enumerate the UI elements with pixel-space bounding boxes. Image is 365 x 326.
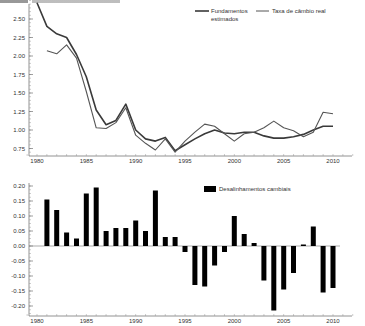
bar-y-tick-label: -0.10 xyxy=(11,273,25,279)
bar-2004 xyxy=(271,246,276,311)
bar-y-tick-label: -0.05 xyxy=(11,258,25,264)
bar-chart: 0.200.150.100.050.00-0.05-0.10-0.15-0.20… xyxy=(0,0,365,326)
bar-1990 xyxy=(133,221,138,247)
bar-2000 xyxy=(232,216,237,246)
bar-1982 xyxy=(54,210,59,246)
bar-1997 xyxy=(202,246,207,287)
bar-1985 xyxy=(84,194,89,247)
bar-x-tick-label: 2000 xyxy=(228,318,242,324)
bar-x-tick-label: 2010 xyxy=(326,318,340,324)
bar-y-tick-label: -0.15 xyxy=(11,288,25,294)
bar-1989 xyxy=(123,228,128,246)
bar-y-tick-label: 0.10 xyxy=(13,213,25,219)
bar-legend: Desalinhamentos cambiais xyxy=(204,186,291,192)
bar-2003 xyxy=(261,246,266,281)
bar-2006 xyxy=(291,246,296,273)
bar-1996 xyxy=(192,246,197,285)
bar-x-tick-label: 2005 xyxy=(277,318,291,324)
bar-1999 xyxy=(222,246,227,252)
bar-x-tick-label: 1985 xyxy=(80,318,94,324)
bar-1984 xyxy=(74,239,79,247)
bar-1994 xyxy=(173,237,178,246)
bar-1993 xyxy=(163,237,168,246)
bar-y-tick-label: -0.20 xyxy=(11,303,25,309)
bar-y-tick-label: 0.20 xyxy=(13,183,25,189)
legend-desalinhamentos-label: Desalinhamentos cambiais xyxy=(219,186,291,192)
bar-y-tick-label: 0.00 xyxy=(13,243,25,249)
bar-x-tick-label: 1990 xyxy=(129,318,143,324)
bar-1981 xyxy=(44,200,49,247)
legend-desalinhamentos-swatch xyxy=(204,186,216,192)
bar-2009 xyxy=(321,246,326,293)
bar-x-tick-label: 1980 xyxy=(30,318,44,324)
bar-1986 xyxy=(94,188,99,247)
bar-1998 xyxy=(212,246,217,266)
bar-1987 xyxy=(104,231,109,246)
bar-1995 xyxy=(183,246,188,252)
bar-2005 xyxy=(281,246,286,290)
bar-2007 xyxy=(301,245,306,247)
bar-1983 xyxy=(64,233,69,247)
bar-1992 xyxy=(153,191,158,247)
bar-2008 xyxy=(311,227,316,247)
bar-1991 xyxy=(143,231,148,246)
bar-1988 xyxy=(113,228,118,246)
bar-x-tick-label: 1995 xyxy=(178,318,192,324)
bar-y-tick-label: 0.05 xyxy=(13,228,25,234)
bar-y-tick-label: 0.15 xyxy=(13,198,25,204)
bar-2001 xyxy=(242,234,247,246)
bar-2010 xyxy=(331,246,336,288)
bar-2002 xyxy=(252,243,257,246)
